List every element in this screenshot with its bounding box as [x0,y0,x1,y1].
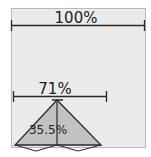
top-dimension-label: 100% [55,9,98,27]
middle-dimension-label: 71% [38,80,71,98]
diagram-canvas: 100% 71% 35.5% [0,0,151,157]
triangle-label: 35.5% [29,123,67,137]
